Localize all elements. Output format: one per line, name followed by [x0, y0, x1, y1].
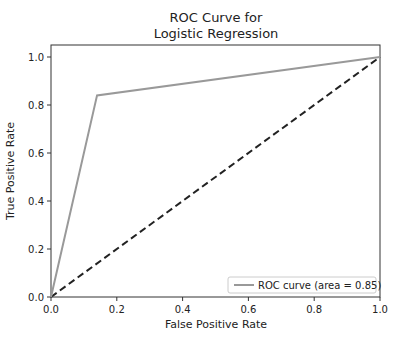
plot-area — [51, 45, 380, 297]
x-axis-ticks: 0.00.20.40.60.81.0 — [43, 297, 388, 315]
roc-chart: ROC Curve for Logistic Regression 0.00.2… — [0, 0, 400, 340]
svg-text:1.0: 1.0 — [28, 52, 44, 63]
y-axis-label: True Positive Rate — [4, 122, 17, 221]
svg-text:0.6: 0.6 — [28, 148, 44, 159]
svg-text:ROC curve (area = 0.85): ROC curve (area = 0.85) — [258, 280, 381, 291]
svg-text:0.0: 0.0 — [43, 304, 59, 315]
svg-text:0.2: 0.2 — [28, 244, 44, 255]
svg-text:0.6: 0.6 — [240, 304, 256, 315]
svg-text:0.4: 0.4 — [175, 304, 191, 315]
x-axis-label: False Positive Rate — [165, 318, 267, 331]
svg-text:0.8: 0.8 — [28, 100, 44, 111]
y-axis-ticks: 0.00.20.40.60.81.0 — [28, 52, 51, 303]
svg-text:0.0: 0.0 — [28, 292, 44, 303]
series-lines — [51, 57, 380, 297]
chart-title: ROC Curve for Logistic Regression — [154, 10, 279, 41]
svg-text:0.4: 0.4 — [28, 196, 44, 207]
svg-text:0.8: 0.8 — [306, 304, 322, 315]
svg-text:0.2: 0.2 — [109, 304, 125, 315]
svg-text:ROC Curve for: ROC Curve for — [170, 10, 263, 25]
legend: ROC curve (area = 0.85) — [228, 277, 381, 293]
svg-text:Logistic Regression: Logistic Regression — [154, 26, 279, 41]
svg-text:1.0: 1.0 — [372, 304, 388, 315]
